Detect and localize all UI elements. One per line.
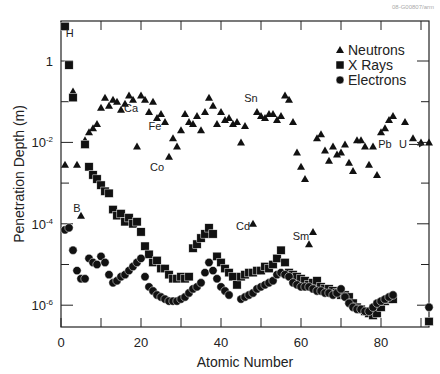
neutrons-point xyxy=(369,142,377,149)
electrons-point xyxy=(205,258,213,266)
neutrons-point xyxy=(105,102,113,109)
neutrons-point xyxy=(321,147,329,154)
x-rays-point xyxy=(277,246,285,254)
x-rays-point xyxy=(69,93,77,101)
neutrons-point xyxy=(365,161,373,168)
legend-square-icon xyxy=(336,61,344,69)
y-tick-label: 10-6 xyxy=(31,298,53,313)
neutrons-point xyxy=(201,108,209,115)
electrons-point xyxy=(197,279,205,287)
neutrons-point xyxy=(209,102,217,109)
electrons-point xyxy=(225,291,233,299)
neutrons-point xyxy=(233,118,241,125)
element-annotation: Sm xyxy=(293,230,310,242)
legend-circle-icon xyxy=(336,76,344,84)
x-rays-point xyxy=(281,258,289,266)
legend-triangle-icon xyxy=(336,46,344,53)
neutrons-point xyxy=(277,112,285,119)
x-rays-point xyxy=(153,256,161,264)
y-tick-label: 10-4 xyxy=(31,217,53,232)
neutrons-point xyxy=(381,124,389,131)
electrons-point xyxy=(101,258,109,266)
element-annotation: Ca xyxy=(124,102,139,114)
neutrons-point xyxy=(169,134,177,141)
neutrons-point xyxy=(293,149,301,156)
x-tick-label: 0 xyxy=(57,335,64,350)
neutrons-point xyxy=(145,108,153,115)
neutrons-point xyxy=(389,112,397,119)
neutrons-point xyxy=(361,142,369,149)
neutrons-point xyxy=(325,157,333,164)
legend-label: Neutrons xyxy=(348,42,405,58)
neutrons-point xyxy=(289,118,297,125)
neutrons-point xyxy=(101,94,109,101)
x-rays-point xyxy=(233,281,241,289)
neutrons-point xyxy=(249,220,257,227)
neutrons-point xyxy=(205,94,213,101)
x-rays-point xyxy=(185,273,193,281)
electrons-point xyxy=(337,285,345,293)
electrons-point xyxy=(209,266,217,274)
y-tick-label: 10-2 xyxy=(31,135,53,150)
neutrons-point xyxy=(225,114,233,121)
electrons-point xyxy=(73,266,81,274)
x-tick-label: 80 xyxy=(374,335,388,350)
neutrons-point xyxy=(317,130,325,137)
y-axis-label: Penetration Depth (m) xyxy=(11,105,27,243)
neutrons-point xyxy=(133,142,141,149)
neutrons-point xyxy=(73,161,81,168)
element-annotation: Fe xyxy=(149,120,162,132)
x-rays-point xyxy=(209,230,217,238)
element-annotation: Cd xyxy=(236,220,250,232)
neutrons-point xyxy=(341,140,349,147)
x-tick-label: 40 xyxy=(214,335,228,350)
neutrons-point xyxy=(137,92,145,99)
x-rays-point xyxy=(273,254,281,262)
x-tick-label: 20 xyxy=(134,335,148,350)
x-rays-point xyxy=(229,273,237,281)
neutrons-point xyxy=(329,142,337,149)
electrons-point xyxy=(81,275,89,283)
neutrons-point xyxy=(373,171,381,178)
neutrons-point xyxy=(197,126,205,133)
neutrons-point xyxy=(337,149,345,156)
neutrons-point xyxy=(409,134,417,141)
neutrons-point xyxy=(93,120,101,127)
x-rays-point xyxy=(81,140,89,148)
x-rays-point xyxy=(133,218,141,226)
neutrons-point xyxy=(349,167,357,174)
electrons-point xyxy=(105,270,113,278)
x-rays-point xyxy=(105,189,113,197)
neutrons-point xyxy=(213,120,221,127)
element-annotation: U xyxy=(399,138,407,150)
y-tick-label: 1 xyxy=(46,54,53,69)
neutrons-point xyxy=(149,98,157,105)
neutrons-point xyxy=(345,159,353,166)
x-rays-point xyxy=(65,61,73,69)
neutrons-point xyxy=(165,153,173,160)
x-rays-point xyxy=(141,242,149,250)
legend-label: Electrons xyxy=(348,72,406,88)
element-annotation: Co xyxy=(150,161,164,173)
element-annotation: B xyxy=(73,202,80,214)
neutrons-point xyxy=(157,110,165,117)
electrons-point xyxy=(65,224,73,232)
electrons-point xyxy=(137,254,145,262)
scatter-chart: 020406080110-210-410-6Atomic NumberPenet… xyxy=(0,0,440,374)
electrons-point xyxy=(93,260,101,268)
x-axis-label: Atomic Number xyxy=(197,354,294,370)
neutrons-point xyxy=(97,104,105,111)
neutrons-point xyxy=(217,108,225,115)
neutrons-point xyxy=(297,163,305,170)
electrons-point xyxy=(213,275,221,283)
element-annotation: H xyxy=(66,27,74,39)
electrons-point xyxy=(69,246,77,254)
neutrons-point xyxy=(181,110,189,117)
neutrons-point xyxy=(253,108,261,115)
neutrons-point xyxy=(301,175,309,182)
x-rays-point xyxy=(85,163,93,171)
x-rays-point xyxy=(117,209,125,217)
electrons-point xyxy=(141,273,149,281)
element-annotation: Pb xyxy=(378,138,391,150)
x-rays-point xyxy=(137,228,145,236)
